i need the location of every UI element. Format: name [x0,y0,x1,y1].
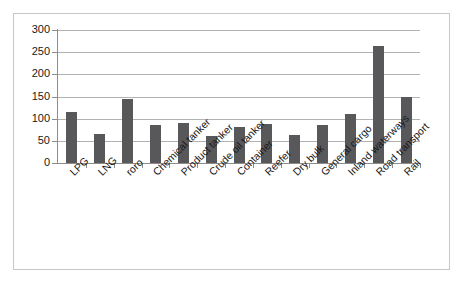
y-axis-tick-labels: 050100150200250300 [0,0,50,285]
x-axis-tick-mark [253,164,254,168]
x-axis-line [57,163,421,164]
bar-series [58,30,420,163]
bar [234,127,245,163]
x-axis-tick-mark [114,164,115,168]
chart-figure: 050100150200250300 LPGLNGroroChemical ta… [0,0,466,285]
bar [178,123,189,163]
y-axis-tick-label: 200 [32,68,50,79]
x-axis-tick-mark [420,164,421,168]
y-axis-tick-label: 0 [44,157,50,168]
x-axis-tick-mark [169,164,170,168]
x-axis-tick-mark [392,164,393,168]
x-axis-tick-mark [142,164,143,168]
bar [373,46,384,163]
y-axis-tick-label: 250 [32,46,50,57]
x-axis-tick-mark [364,164,365,168]
x-axis-tick-mark [309,164,310,168]
x-axis-tick-mark [86,164,87,168]
x-axis-tick-mark [336,164,337,168]
bar [345,114,356,163]
bar [150,125,161,163]
bar [317,125,328,163]
y-axis-tick-label: 50 [38,135,50,146]
x-axis-tick-mark [225,164,226,168]
y-axis-tick-label: 100 [32,113,50,124]
bar [94,134,105,163]
x-axis-tick-mark [281,164,282,168]
bar [261,124,272,163]
bar [66,112,77,163]
y-axis-tick-label: 300 [32,24,50,35]
bar [401,97,412,164]
bar [206,136,217,163]
x-axis-tick-mark [197,164,198,168]
bar [122,99,133,163]
y-axis-tick-label: 150 [32,91,50,102]
bar [289,135,300,163]
